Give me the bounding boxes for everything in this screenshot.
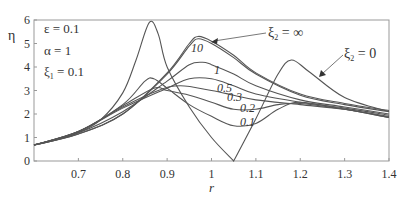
annotation-xi2-zero: ξ2 = 0 <box>344 46 376 63</box>
curve-label-10: 10 <box>191 41 203 55</box>
param-alpha: α = 1 <box>44 43 71 58</box>
y-tick-label: 4 <box>24 60 30 74</box>
y-tick-label: 2 <box>24 107 30 121</box>
arrow-xi2-infinity <box>214 33 266 41</box>
x-tick-label: 0.7 <box>71 167 86 181</box>
x-tick-label: 1.2 <box>293 167 308 181</box>
x-tick-label: 0.8 <box>115 167 130 181</box>
y-axis-label: η <box>8 28 15 43</box>
y-tick-label: 3 <box>24 84 30 98</box>
series-line <box>34 21 389 161</box>
series-line <box>34 78 389 145</box>
x-tick-label: 1 <box>209 167 215 181</box>
y-tick-label: 5 <box>24 37 30 51</box>
x-tick-label: 1.4 <box>382 167 397 181</box>
param-xi1: ξ1 = 0.1 <box>44 64 84 81</box>
x-tick-label: 1.1 <box>248 167 263 181</box>
curve-label-1: 1 <box>214 63 220 77</box>
param-epsilon: ε = 0.1 <box>44 21 80 36</box>
curve-label-0.2: 0.2 <box>240 101 255 115</box>
y-tick-label: 1 <box>24 131 30 145</box>
curve-label-0.1: 0.1 <box>240 115 255 129</box>
series-group <box>34 21 389 161</box>
annotation-xi2-infinity: ξ2 = ∞ <box>268 25 303 42</box>
x-axis-label: r <box>209 180 215 195</box>
series-line <box>34 78 389 145</box>
x-tick-label: 1.3 <box>337 167 352 181</box>
y-tick-label: 6 <box>24 13 30 27</box>
chart-container: 0.70.80.911.11.21.31.4 0123456 η r ε = 0… <box>0 0 409 203</box>
arrow-xi2-zero <box>322 55 343 74</box>
x-tick-label: 0.9 <box>160 167 175 181</box>
y-tick-label: 0 <box>24 154 30 168</box>
series-line <box>34 86 389 145</box>
